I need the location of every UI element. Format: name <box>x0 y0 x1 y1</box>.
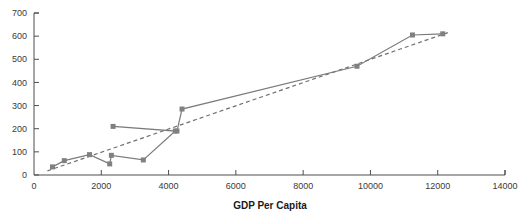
data-point-marker <box>354 64 359 69</box>
x-tick-label: 6000 <box>226 181 246 191</box>
x-tick-label: 14000 <box>492 181 517 191</box>
chart-container: 0100200300400500600700 02000400060008000… <box>0 0 520 222</box>
y-tick-label: 0 <box>22 170 27 180</box>
x-axis-ticks: 02000400060008000100001200014000 <box>31 170 517 191</box>
y-tick-label: 600 <box>12 31 27 41</box>
y-tick-label: 300 <box>12 101 27 111</box>
x-tick-label: 0 <box>31 181 36 191</box>
data-point-marker <box>62 158 67 163</box>
series-line <box>53 34 443 167</box>
y-tick-label: 700 <box>12 8 27 18</box>
data-point-marker <box>410 32 415 37</box>
data-point-marker <box>87 152 92 157</box>
x-tick-label: 12000 <box>425 181 450 191</box>
y-axis-ticks: 0100200300400500600700 <box>12 8 39 180</box>
data-point-marker <box>111 124 116 129</box>
data-point-marker <box>180 107 185 112</box>
y-tick-label: 400 <box>12 78 27 88</box>
data-point-marker <box>174 129 179 134</box>
y-tick-label: 200 <box>12 124 27 134</box>
data-point-marker <box>107 161 112 166</box>
trendline <box>47 33 447 171</box>
data-point-markers <box>50 31 445 169</box>
data-point-marker <box>109 153 114 158</box>
x-tick-label: 4000 <box>159 181 179 191</box>
data-point-marker <box>440 31 445 36</box>
y-tick-label: 100 <box>12 147 27 157</box>
y-tick-label: 500 <box>12 54 27 64</box>
x-tick-label: 8000 <box>293 181 313 191</box>
gdp-per-capita-scatter-chart: 0100200300400500600700 02000400060008000… <box>0 0 520 222</box>
data-point-marker <box>141 157 146 162</box>
data-point-marker <box>50 164 55 169</box>
x-tick-label: 10000 <box>358 181 383 191</box>
x-tick-label: 2000 <box>91 181 111 191</box>
x-axis-title: GDP Per Capita <box>233 200 307 211</box>
